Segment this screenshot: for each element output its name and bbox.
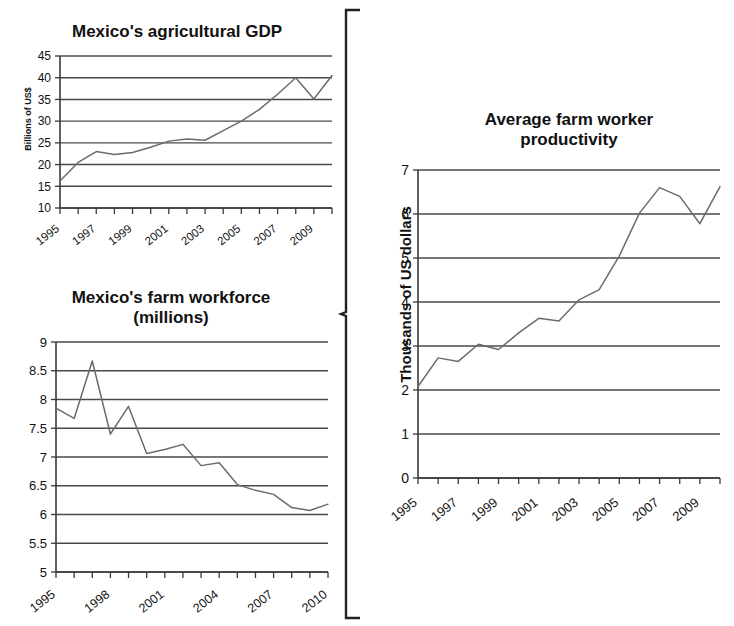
y-axis-label-agricultural-gdp: Billions of US$ xyxy=(23,77,33,161)
x-axis-tick-label: 2005 xyxy=(215,222,243,247)
chart-title-line-2: productivity xyxy=(412,130,726,150)
y-axis-tick-label: 20 xyxy=(38,158,52,172)
x-axis-tick-label: 2001 xyxy=(509,495,541,525)
x-axis-tick-label: 1995 xyxy=(27,587,58,615)
x-axis-tick-label: 1999 xyxy=(106,222,134,247)
plot-area-agricultural-gdp: Billions of US$ 101520253035404519951997… xyxy=(18,50,336,230)
y-axis-tick-label: 5 xyxy=(40,565,47,580)
x-axis-tick-label: 2007 xyxy=(251,222,279,247)
y-axis-tick-label: 30 xyxy=(38,115,52,129)
data-series-line xyxy=(418,187,720,387)
chart-title-farm-workforce: Mexico's farm workforce (millions) xyxy=(8,288,334,328)
x-axis-tick-label: 2001 xyxy=(136,587,167,615)
chart-title-agricultural-gdp: Mexico's agricultural GDP xyxy=(18,22,336,42)
x-axis-tick-label: 1995 xyxy=(34,222,62,247)
data-series-line xyxy=(56,361,328,511)
y-axis-tick-label: 10 xyxy=(38,201,52,215)
x-axis-tick-label: 1997 xyxy=(70,222,98,247)
y-axis-tick-label: 6 xyxy=(40,507,47,522)
plot-area-farm-workforce: 55.566.577.588.5919951998200120042007201… xyxy=(8,336,334,596)
x-axis-tick-label: 2005 xyxy=(589,495,621,525)
x-axis-tick-label: 1999 xyxy=(468,495,500,525)
x-axis-tick-label: 2009 xyxy=(670,495,702,525)
x-axis-tick-label: 1995 xyxy=(388,495,420,525)
plot-area-worker-productivity: Thousands of US dollars 0123456719951997… xyxy=(378,164,726,504)
x-axis-tick-label: 2007 xyxy=(245,587,276,615)
chart-svg-agricultural-gdp: 1015202530354045199519971999200120032005… xyxy=(18,50,336,230)
y-axis-tick-label: 35 xyxy=(38,93,52,107)
y-axis-tick-label: 45 xyxy=(38,49,52,63)
grouping-brace xyxy=(340,8,366,620)
chart-title-line-1: Mexico's farm workforce xyxy=(8,288,334,308)
chart-panel-farm-workforce: Mexico's farm workforce (millions) 55.56… xyxy=(8,288,334,596)
x-axis-tick-label: 1998 xyxy=(82,587,113,615)
chart-panel-worker-productivity: Average farm worker productivity Thousan… xyxy=(378,110,726,504)
x-axis-tick-label: 2007 xyxy=(629,495,661,525)
x-axis-tick-label: 2003 xyxy=(179,222,207,247)
y-axis-tick-label: 7.5 xyxy=(29,421,47,436)
x-axis-tick-label: 2009 xyxy=(288,222,316,247)
x-axis-tick-label: 1997 xyxy=(428,495,460,525)
chart-svg-worker-productivity: 0123456719951997199920012003200520072009 xyxy=(378,164,726,504)
y-axis-tick-label: 40 xyxy=(38,71,52,85)
y-axis-tick-label: 15 xyxy=(38,180,52,194)
curly-brace-icon xyxy=(340,8,366,620)
y-axis-tick-label: 7 xyxy=(40,450,47,465)
x-axis-tick-label: 2003 xyxy=(549,495,581,525)
y-axis-tick-label: 0 xyxy=(401,470,409,486)
y-axis-tick-label: 1 xyxy=(401,426,409,442)
y-axis-tick-label: 25 xyxy=(38,136,52,150)
x-axis-tick-label: 2001 xyxy=(142,222,170,247)
chart-title-worker-productivity: Average farm worker productivity xyxy=(412,110,726,150)
chart-svg-farm-workforce: 55.566.577.588.5919951998200120042007201… xyxy=(8,336,334,596)
chart-title-line-1: Average farm worker xyxy=(412,110,726,130)
chart-panel-agricultural-gdp: Mexico's agricultural GDP Billions of US… xyxy=(18,22,336,230)
y-axis-label-worker-productivity: Thousands of US dollars xyxy=(397,175,414,415)
x-axis-tick-label: 2004 xyxy=(191,587,222,615)
y-axis-tick-label: 6.5 xyxy=(29,479,47,494)
y-axis-tick-label: 9 xyxy=(40,335,47,350)
chart-title-line-2: (millions) xyxy=(8,308,334,328)
y-axis-tick-label: 5.5 xyxy=(29,536,47,551)
x-axis-tick-label: 2010 xyxy=(299,587,330,615)
y-axis-tick-label: 8.5 xyxy=(29,364,47,379)
y-axis-tick-label: 8 xyxy=(40,392,47,407)
